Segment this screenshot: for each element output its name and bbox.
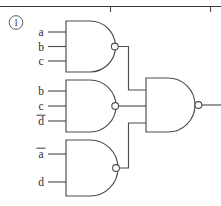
problem-marker: 1 bbox=[9, 16, 23, 30]
label-abar-g3: a bbox=[38, 148, 43, 160]
label-b-g1: b bbox=[38, 41, 44, 53]
gate1-input-labels: a b c bbox=[38, 26, 44, 67]
nand-gate-1 bbox=[48, 21, 146, 90]
nand-bubble-g1 bbox=[111, 43, 118, 50]
label-c-g1: c bbox=[38, 55, 43, 67]
gate2-input-labels: b c d bbox=[37, 85, 46, 127]
label-b-g2: b bbox=[38, 85, 44, 97]
label-a-g1: a bbox=[38, 26, 43, 38]
label-c-g2: c bbox=[38, 100, 43, 112]
nand-gate-2 bbox=[48, 80, 146, 132]
nand-gate-3 bbox=[48, 123, 146, 196]
label-d-g3: d bbox=[38, 176, 44, 188]
problem-marker-label: 1 bbox=[14, 17, 19, 28]
nand-gate-output bbox=[146, 78, 221, 132]
gate3-input-labels: a d bbox=[37, 148, 46, 188]
nand-bubble-g2 bbox=[112, 103, 119, 110]
wire-g1-to-output-gate bbox=[118, 47, 146, 91]
logic-circuit-diagram: 1 a b c bbox=[0, 0, 221, 206]
label-dbar-g2: d bbox=[38, 115, 44, 127]
nand-bubble-output bbox=[195, 102, 202, 109]
diagram-page: 1 a b c bbox=[0, 0, 221, 206]
header-rule bbox=[0, 7, 221, 13]
nand-bubble-g3 bbox=[113, 165, 120, 172]
wire-g3-to-output-gate bbox=[119, 123, 146, 168]
